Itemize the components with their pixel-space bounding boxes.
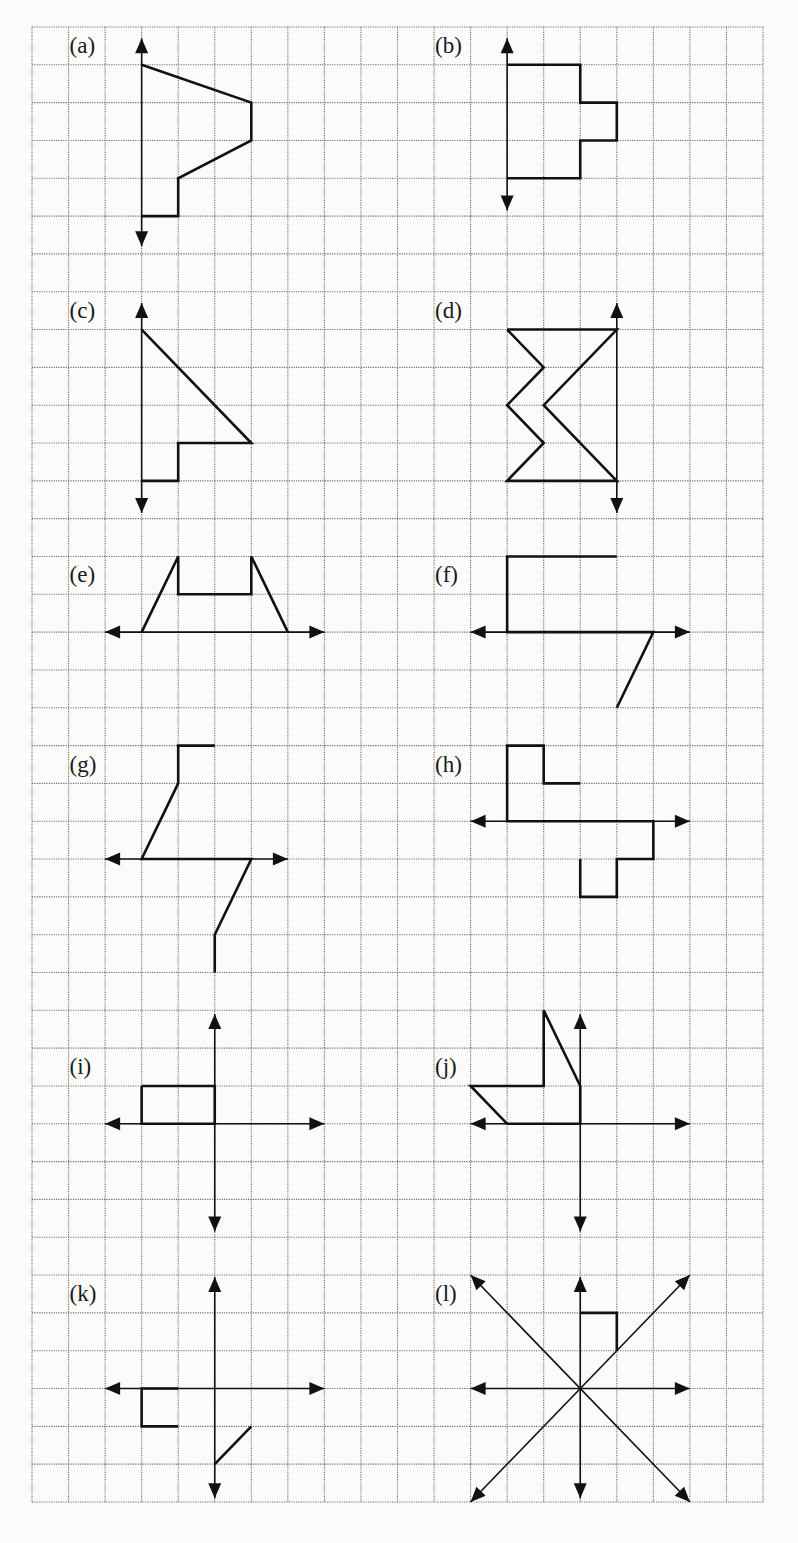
arrowhead-icon <box>675 815 690 828</box>
arrowhead-icon <box>309 1117 324 1130</box>
arrowhead-icon <box>574 1483 587 1498</box>
arrowhead-icon <box>574 1014 587 1029</box>
figure-e <box>105 556 324 638</box>
shape-outline <box>507 746 653 897</box>
arrowhead-icon <box>105 853 120 866</box>
figure-label-h: (h) <box>435 753 462 776</box>
figure-label-a: (a) <box>70 34 96 57</box>
arrowhead-icon <box>208 1277 221 1292</box>
figure-k <box>105 1277 324 1498</box>
arrowhead-icon <box>135 231 148 246</box>
arrowhead-icon <box>675 626 690 639</box>
graph-paper <box>0 0 798 1543</box>
shape-outline <box>142 1389 179 1427</box>
arrowhead-icon <box>501 195 514 210</box>
grid-lines <box>32 27 763 1502</box>
arrowhead-icon <box>501 38 514 53</box>
arrowhead-icon <box>471 1117 486 1130</box>
arrowhead-icon <box>675 1117 690 1130</box>
figure-a <box>135 38 251 246</box>
figure-label-e: (e) <box>70 563 96 586</box>
arrowhead-icon <box>105 626 120 639</box>
arrowhead-icon <box>309 626 324 639</box>
figure-label-i: (i) <box>70 1055 92 1078</box>
worksheet-grid: (a)(b)(c)(d)(e)(f)(g)(h)(i)(j)(k)(l) <box>0 0 798 1543</box>
arrowhead-icon <box>610 303 623 318</box>
figure-label-c: (c) <box>70 299 96 322</box>
figure-label-j: (j) <box>435 1055 457 1078</box>
shape-outline <box>507 330 617 481</box>
arrowhead-icon <box>208 1217 221 1232</box>
shape-outline <box>215 1426 252 1464</box>
figure-d <box>507 303 623 513</box>
arrowhead-icon <box>105 1117 120 1130</box>
figure-h <box>471 746 690 897</box>
arrowhead-icon <box>135 303 148 318</box>
figure-c <box>135 303 251 513</box>
shape-outline <box>580 1313 617 1351</box>
arrowhead-icon <box>135 498 148 513</box>
arrowhead-icon <box>309 1382 324 1395</box>
shape-outline <box>471 1010 581 1123</box>
arrowhead-icon <box>610 498 623 513</box>
arrowhead-icon <box>105 1382 120 1395</box>
arrowhead-icon <box>273 853 288 866</box>
shape-outline <box>142 746 252 973</box>
vertical-mirror-line <box>208 1277 221 1498</box>
arrowhead-icon <box>208 1014 221 1029</box>
arrowhead-icon <box>135 38 148 53</box>
figure-l <box>471 1275 690 1502</box>
shape-outline <box>142 65 252 216</box>
arrowhead-icon <box>471 815 486 828</box>
figure-b <box>501 38 617 210</box>
arrowhead-icon <box>471 626 486 639</box>
figure-label-l: (l) <box>435 1282 457 1305</box>
figure-label-g: (g) <box>70 753 97 776</box>
arrowhead-icon <box>574 1217 587 1232</box>
arrowhead-icon <box>208 1483 221 1498</box>
figure-label-d: (d) <box>435 299 462 322</box>
figure-g <box>105 746 288 973</box>
figure-label-f: (f) <box>435 563 458 586</box>
figure-label-b: (b) <box>435 34 462 57</box>
shape-outline <box>507 65 617 178</box>
figure-label-k: (k) <box>70 1282 97 1305</box>
figure-j <box>471 1010 690 1231</box>
arrowhead-icon <box>675 1382 690 1395</box>
arrowhead-icon <box>471 1382 486 1395</box>
shape-outline <box>142 330 252 481</box>
arrowhead-icon <box>574 1277 587 1292</box>
